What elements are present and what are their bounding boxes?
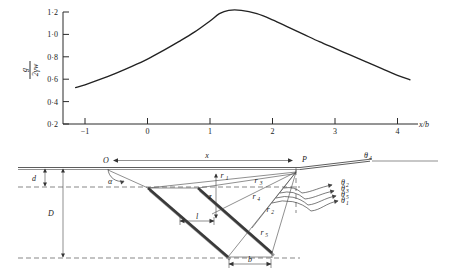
label-P: P: [301, 155, 307, 164]
arrow-head: [330, 190, 335, 194]
x-axis-label: x/b: [418, 120, 429, 129]
x-tick-label: 1: [208, 127, 212, 136]
y-axis-label: g 2γw: [20, 61, 40, 79]
svg-text:3: 3: [259, 180, 263, 186]
arrow-head: [61, 169, 65, 173]
chart-panel: 0·2 0·4 0·6 0·8 1·0 1·2 −1 0 1 2 3 4 x/b: [20, 8, 429, 136]
arrow-head: [332, 195, 337, 199]
label-r3: r 3: [254, 176, 262, 186]
svg-text:θ: θ: [364, 151, 368, 160]
dimension-d: d: [32, 169, 47, 187]
svg-text:1: 1: [226, 175, 229, 181]
svg-text:r: r: [260, 228, 264, 237]
theta-labels: θ 2 θ 3 θ 5 θ 1 θ 4: [341, 151, 372, 206]
arrow-head: [43, 169, 47, 173]
arrow-head: [43, 183, 47, 187]
arrow-head: [334, 200, 339, 204]
label-x: x: [204, 151, 209, 160]
svg-text:1: 1: [346, 200, 349, 206]
right-slope-line: [300, 159, 372, 168]
figure-container: 0·2 0·4 0·6 0·8 1·0 1·2 −1 0 1 2 3 4 x/b: [0, 0, 449, 276]
y-tick-label: 0·8: [47, 53, 58, 62]
arrow-head: [214, 215, 218, 219]
x-axis-tick-labels: −1 0 1 2 3 4: [81, 127, 400, 136]
label-l: l: [196, 212, 199, 221]
x-tick-label: 4: [396, 127, 400, 136]
svg-text:r: r: [266, 205, 270, 214]
label-d: d: [32, 174, 37, 183]
radius-line-r2b: [272, 172, 296, 253]
svg-text:5: 5: [265, 232, 268, 238]
label-D: D: [47, 209, 54, 218]
svg-text:r: r: [252, 192, 256, 201]
arrow-head-right: [288, 158, 293, 162]
label-O: O: [103, 156, 109, 165]
label-r5: r 5: [260, 228, 268, 238]
y-tick-label: 1·2: [47, 8, 58, 17]
x-axis-ticks: [85, 118, 398, 124]
svg-text:r: r: [220, 171, 224, 180]
x-tick-label: 3: [333, 127, 337, 136]
svg-text:4: 4: [257, 196, 260, 202]
arrow-head: [61, 254, 65, 258]
svg-text:θ: θ: [341, 196, 345, 205]
svg-text:r: r: [254, 176, 258, 185]
x-tick-label: 2: [271, 127, 275, 136]
y-tick-label: 1·0: [47, 30, 58, 39]
arrow-head: [214, 174, 218, 178]
label-r4: r 4: [252, 192, 260, 202]
diagram-panel: d D O x P α: [18, 151, 438, 268]
angle-alpha: α: [108, 169, 125, 186]
svg-text:2: 2: [271, 209, 274, 215]
y-axis-ticks: [63, 12, 69, 124]
theta-leader-lines: [302, 184, 339, 211]
y-tick-label: 0·4: [47, 98, 58, 107]
y-tick-label: 0·2: [47, 120, 58, 129]
figure-svg: 0·2 0·4 0·6 0·8 1·0 1·2 −1 0 1 2 3 4 x/b: [0, 0, 449, 276]
dimension-D: D: [47, 169, 65, 258]
arrow-head-left: [113, 158, 118, 162]
label-r2: r 2: [266, 205, 274, 215]
svg-text:4: 4: [369, 155, 372, 161]
x-tick-label: 0: [146, 127, 150, 136]
x-tick-label: −1: [81, 127, 90, 136]
dimension-x: O x: [103, 151, 293, 165]
y-axis-label-denominator: 2γw: [31, 63, 40, 76]
label-b: b: [248, 255, 252, 264]
arrow-head: [328, 184, 333, 188]
right-slope-line-2: [300, 161, 370, 169]
y-tick-label: 0·6: [47, 75, 58, 84]
y-axis-tick-labels: 0·2 0·4 0·6 0·8 1·0 1·2: [47, 8, 58, 129]
radius-labels: r 1 r 3 r 4 r 2 r 5: [220, 171, 274, 238]
data-curve: [76, 10, 410, 88]
y-axis-label-numerator: g: [20, 68, 29, 72]
